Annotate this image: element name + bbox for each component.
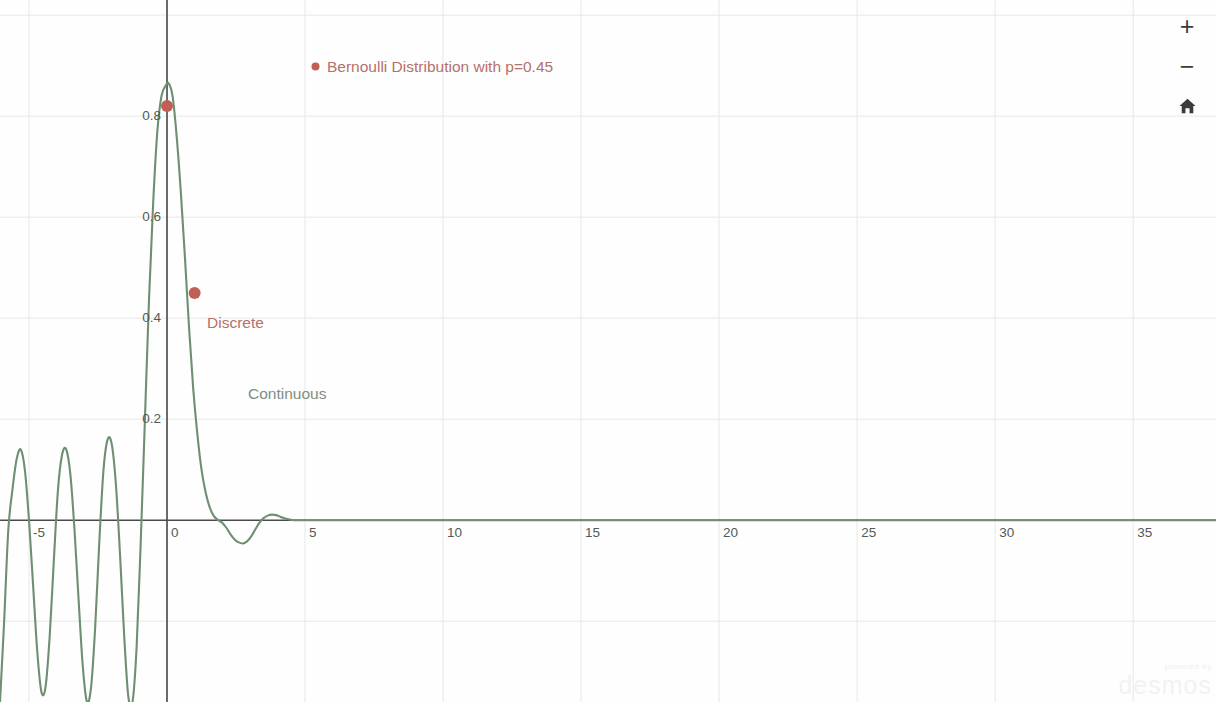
x-tick-label: 25 — [861, 525, 876, 540]
home-icon — [1179, 98, 1196, 114]
discrete-point — [161, 100, 173, 112]
plus-icon: + — [1180, 14, 1195, 39]
desmos-watermark: powered by desmos — [1118, 662, 1212, 698]
x-tick-label: -5 — [33, 525, 45, 540]
discrete-point — [189, 287, 201, 299]
y-tick-label: 0.6 — [142, 209, 161, 224]
y-tick-label: 0.8 — [142, 108, 161, 123]
discrete-label: Discrete — [207, 314, 264, 332]
grid-lines — [0, 0, 1216, 702]
y-tick-label: 0.2 — [142, 411, 161, 426]
axes — [0, 0, 1216, 702]
x-tick-label: 15 — [585, 525, 600, 540]
x-tick-label: 5 — [309, 525, 317, 540]
x-tick-label: 10 — [447, 525, 462, 540]
continuous-curve — [0, 83, 1216, 702]
x-tick-label: 0 — [171, 525, 179, 540]
desmos-graph-calculator[interactable]: -5051015202530350.20.40.60.8 Bernoulli D… — [0, 0, 1216, 702]
legend-bernoulli-label: Bernoulli Distribution with p=0.45 — [310, 58, 553, 76]
graph-canvas[interactable] — [0, 0, 1216, 702]
zoom-in-button[interactable]: + — [1167, 6, 1207, 46]
series-line-continuous — [0, 83, 1216, 702]
home-button[interactable] — [1167, 86, 1207, 126]
x-tick-label: 30 — [999, 525, 1014, 540]
minus-icon: − — [1180, 54, 1195, 79]
legend-bernoulli-text: Bernoulli Distribution with p=0.45 — [327, 58, 553, 75]
x-tick-label: 20 — [723, 525, 738, 540]
continuous-label: Continuous — [248, 385, 326, 403]
legend-dot-icon — [310, 61, 321, 72]
x-tick-label: 35 — [1137, 525, 1152, 540]
zoom-out-button[interactable]: − — [1167, 46, 1207, 86]
watermark-brand-text: desmos — [1118, 672, 1212, 698]
y-tick-label: 0.4 — [142, 310, 161, 325]
zoom-controls[interactable]: + − — [1166, 6, 1208, 126]
